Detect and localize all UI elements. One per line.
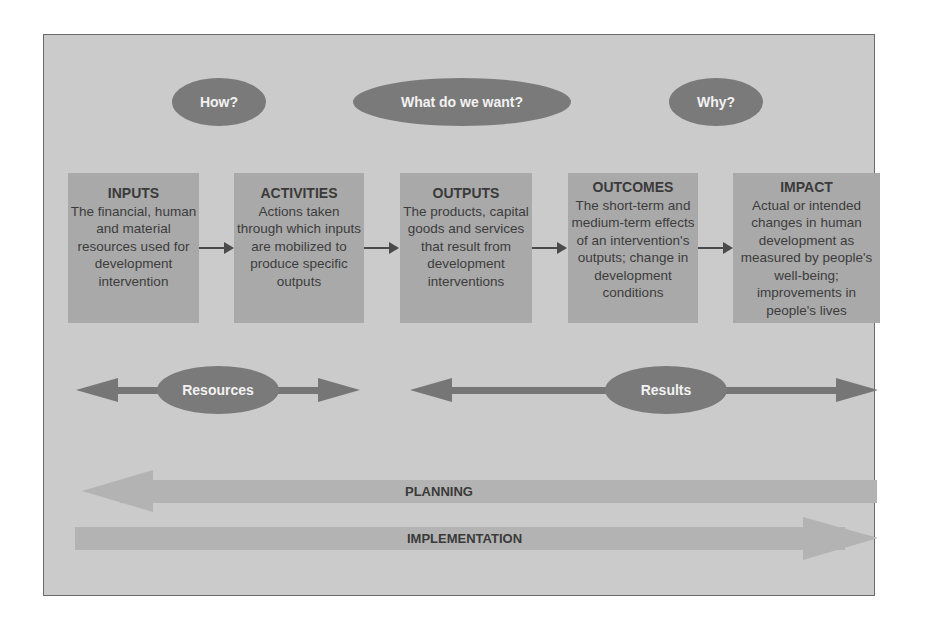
stage-activities-title: ACTIVITIES (234, 185, 364, 203)
stage-inputs: INPUTS The financial, human and material… (68, 173, 199, 323)
stage-impact-description: Actual or intended changes in human deve… (737, 197, 876, 320)
stage-outputs-title: OUTPUTS (400, 185, 532, 203)
phase-planning-label: PLANNING (405, 484, 473, 499)
stage-impact: IMPACT Actual or intended changes in hum… (733, 173, 880, 323)
stage-impact-title: IMPACT (737, 179, 876, 197)
stage-outcomes-title: OUTCOMES (568, 179, 698, 197)
question-why: Why? (669, 78, 763, 126)
grouping-results-label: Results (641, 382, 692, 398)
stage-outcomes-description: The short-term and medium-term effects o… (568, 197, 698, 302)
stage-outputs: OUTPUTS The products, capital goods and … (400, 173, 532, 323)
stage-arrow-4 (698, 242, 733, 254)
grouping-resources: Resources (157, 366, 279, 414)
phase-implementation-label: IMPLEMENTATION (407, 531, 522, 546)
stage-outputs-description: The products, capital goods and services… (400, 203, 532, 291)
stage-outcomes: OUTCOMES The short-term and medium-term … (568, 173, 698, 323)
stage-arrow-3 (532, 242, 567, 254)
question-why-label: Why? (697, 94, 735, 110)
stage-inputs-title: INPUTS (68, 185, 199, 203)
question-what-label: What do we want? (401, 94, 523, 110)
stage-arrow-2 (364, 242, 399, 254)
stage-arrow-1 (199, 242, 234, 254)
planning-arrow (82, 470, 877, 512)
stage-activities-description: Actions taken through which inputs are m… (234, 203, 364, 291)
question-what: What do we want? (353, 78, 571, 126)
question-how-label: How? (200, 94, 238, 110)
stage-activities: ACTIVITIES Actions taken through which i… (234, 173, 364, 323)
grouping-resources-label: Resources (182, 382, 254, 398)
question-how: How? (172, 78, 266, 126)
grouping-results: Results (605, 366, 727, 414)
stage-inputs-description: The financial, human and material resour… (68, 203, 199, 291)
